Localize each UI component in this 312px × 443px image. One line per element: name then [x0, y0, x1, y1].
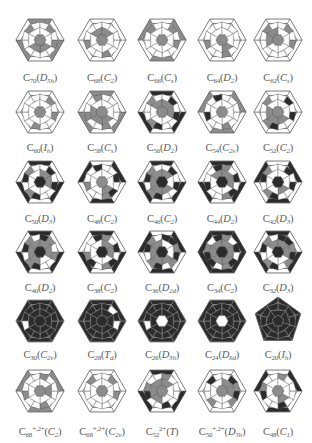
schlegel-diagram-icon [253, 227, 303, 277]
paren-close: ) [52, 213, 55, 224]
atom-count: 28 [94, 354, 101, 362]
fullerene-figure: C70(D5h)C68(C2)C66(Cs)C64(D2)C62(Cs)C60(… [0, 0, 312, 443]
formula: C [263, 142, 270, 153]
schlegel-diagram-icon [15, 366, 65, 416]
schlegel-diagram-icon [15, 87, 65, 137]
schlegel-diagram-icon [77, 157, 127, 207]
formula: C [87, 282, 94, 293]
formula: C [205, 349, 212, 360]
formula: C [263, 426, 270, 437]
schlegel-diagram-icon [77, 87, 127, 137]
paren-close: ) [174, 142, 177, 153]
point-group: D [223, 213, 230, 224]
symmetry-label: C48(C1) [242, 426, 312, 437]
point-group: D [41, 213, 48, 224]
point-group: D [279, 282, 286, 293]
point-group: D [223, 72, 230, 83]
point-group: D [222, 349, 229, 360]
paren-close: ) [175, 426, 178, 437]
schlegel-diagram-icon [197, 157, 247, 207]
formula: C [265, 349, 272, 360]
paren-close: ) [235, 142, 238, 153]
point-group: C [164, 72, 171, 83]
paren-close: ) [52, 282, 55, 293]
formula: C [145, 349, 152, 360]
paren-close: ) [234, 72, 237, 83]
point-group-subscript: 3h [169, 354, 176, 362]
schlegel-diagram-icon [137, 87, 187, 137]
symmetry-label: C32(D3) [242, 282, 312, 293]
paren-close: ) [289, 72, 292, 83]
schlegel-diagram-icon [137, 227, 187, 277]
schlegel-diagram-icon [15, 15, 65, 65]
paren-close: ) [114, 282, 117, 293]
formula: C [199, 426, 206, 437]
paren-close: ) [113, 142, 116, 153]
schlegel-diagram-icon [137, 296, 187, 346]
paren-close: ) [236, 349, 239, 360]
schlegel-diagram-icon [77, 366, 127, 416]
schlegel-diagram-icon [197, 296, 247, 346]
schlegel-diagram-icon [77, 227, 127, 277]
schlegel-diagram-icon [137, 15, 187, 65]
paren-close: ) [58, 426, 61, 437]
schlegel-diagram-icon [197, 87, 247, 137]
paren-close: ) [290, 213, 293, 224]
point-group-subscript: 2d [169, 287, 176, 295]
charge: +,2+ [93, 425, 105, 433]
formula: C [87, 72, 94, 83]
charge: +,2+ [212, 425, 224, 433]
symmetry-label: C42(D3) [242, 213, 312, 224]
schlegel-diagram-icon [253, 87, 303, 137]
paren-close: ) [50, 142, 53, 153]
point-group: D [162, 282, 169, 293]
schlegel-diagram-icon [253, 296, 303, 346]
schlegel-diagram-icon [253, 366, 303, 416]
schlegel-diagram-icon [253, 15, 303, 65]
schlegel-diagram-icon [137, 157, 187, 207]
atom-count: 54 [212, 147, 219, 155]
point-group: C [280, 72, 287, 83]
atom-count: 58 [94, 147, 101, 155]
point-group: C [40, 349, 47, 360]
paren-close: ) [173, 72, 176, 83]
atom-count: 66 [154, 77, 161, 85]
schlegel-diagram-icon [197, 366, 247, 416]
paren-close: ) [234, 282, 237, 293]
schlegel-diagram-icon [15, 296, 65, 346]
paren-close: ) [114, 72, 117, 83]
paren-close: ) [53, 349, 56, 360]
formula: C [145, 282, 152, 293]
paren-close: ) [290, 282, 293, 293]
paren-close: ) [176, 282, 179, 293]
symmetry-label: C62(Cs) [242, 72, 312, 83]
point-group-subscript: 6d [229, 354, 236, 362]
paren-close: ) [290, 142, 293, 153]
schlegel-diagram-icon [77, 296, 127, 346]
paren-close: ) [176, 349, 179, 360]
formula: C [87, 213, 94, 224]
point-group: D [40, 72, 47, 83]
formula: C [19, 426, 26, 437]
schlegel-diagram-icon [197, 15, 247, 65]
paren-close: ) [114, 213, 117, 224]
point-group-subscript: 5h [235, 431, 242, 439]
paren-close: ) [288, 349, 291, 360]
paren-close: ) [290, 426, 293, 437]
point-group: D [41, 282, 48, 293]
formula: C [27, 142, 34, 153]
atom-count: 68 [86, 431, 93, 439]
schlegel-diagram-icon [197, 227, 247, 277]
paren-close: ) [174, 213, 177, 224]
point-group: D [162, 349, 169, 360]
formula: C [23, 72, 30, 83]
point-group: C [48, 426, 55, 437]
paren-close: ) [54, 72, 57, 83]
paren-close: ) [234, 213, 237, 224]
symmetry-label: C20(Ih) [242, 349, 312, 360]
schlegel-diagram-icon [137, 366, 187, 416]
point-group: D [163, 142, 170, 153]
point-group-subscript: 5h [47, 77, 54, 85]
schlegel-diagram-icon [77, 15, 127, 65]
atom-count: 62 [270, 77, 277, 85]
